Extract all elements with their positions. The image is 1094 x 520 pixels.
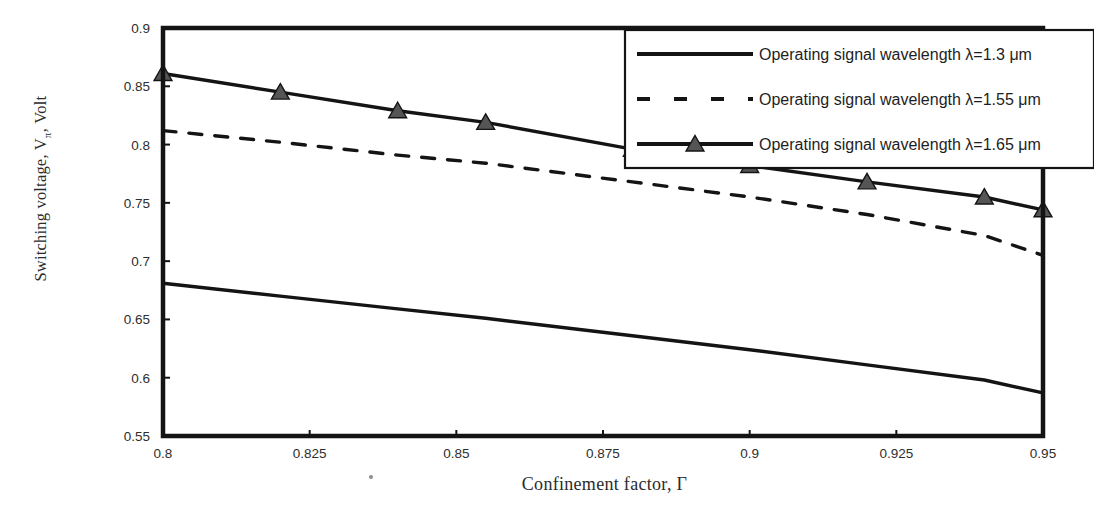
legend-label-2: Operating signal wavelength λ=1.65 μm	[759, 136, 1041, 153]
chart-canvas: 0.550.60.650.70.750.80.850.9 0.80.8250.8…	[0, 0, 1094, 520]
y-tick-label-2: 0.65	[124, 312, 150, 327]
x-tick-label-3: 0.875	[586, 446, 620, 461]
x-tick-label-4: 0.9	[740, 446, 759, 461]
legend: Operating signal wavelength λ=1.3 μmOper…	[625, 30, 1094, 168]
x-tick-label-group: 0.80.8250.850.8750.90.9250.95	[154, 446, 1057, 461]
y-tick-label-3: 0.7	[131, 254, 150, 269]
x-tick-label-5: 0.925	[879, 446, 913, 461]
y-tick-label-6: 0.85	[124, 79, 150, 94]
legend-label-1: Operating signal wavelength λ=1.55 μm	[759, 91, 1041, 108]
y-tick-label-4: 0.75	[124, 196, 150, 211]
x-tick-label-0: 0.8	[154, 446, 173, 461]
artifact-speck	[369, 475, 373, 479]
y-tick-label-group: 0.550.60.650.70.750.80.850.9	[124, 21, 150, 444]
y-tick-label-5: 0.8	[131, 138, 150, 153]
x-tick-label-6: 0.95	[1030, 446, 1056, 461]
x-tick-label-1: 0.825	[293, 446, 327, 461]
legend-label-0: Operating signal wavelength λ=1.3 μm	[759, 46, 1032, 63]
series-line-0	[163, 283, 1043, 393]
y-tick-label-7: 0.9	[131, 21, 150, 36]
x-tick-label-2: 0.85	[443, 446, 469, 461]
y-tick-label-1: 0.6	[131, 371, 150, 386]
figure-root: Switching voltage, Vπ, Volt Confinement …	[0, 0, 1094, 520]
series-0	[163, 283, 1043, 393]
y-tick-label-0: 0.55	[124, 429, 150, 444]
